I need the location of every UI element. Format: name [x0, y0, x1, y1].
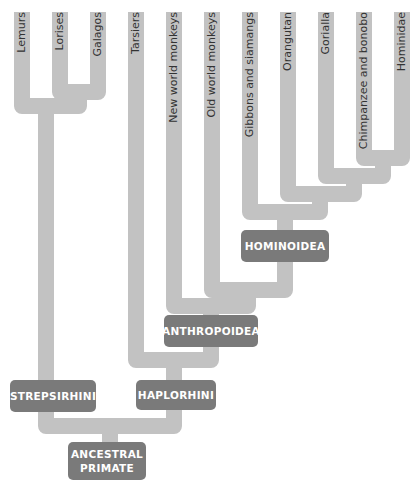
leaf-galagos: Galagos — [90, 12, 106, 132]
node-label: HOMINOIDEA — [245, 239, 326, 253]
leaf-label: Old world monkeys — [204, 12, 220, 117]
leaf-label: Hominidae — [394, 12, 410, 71]
leaf-gibbons-siamangs: Gibbons and siamangs — [242, 12, 258, 132]
leaf-lemurs: Lemurs — [14, 12, 30, 132]
leaf-label: New world monkeys — [166, 12, 182, 123]
node-label-line2: PRIMATE — [80, 461, 134, 475]
leaf-label: Lorises — [52, 12, 68, 50]
leaf-hominidae: Hominidae — [394, 12, 410, 132]
leaf-label: Tarsiers — [128, 12, 144, 54]
node-label: ANTHROPOIDEA — [162, 324, 260, 338]
leaf-label: Gibbons and siamangs — [242, 12, 258, 137]
leaf-label: Chimpanzee and bonobo — [356, 12, 372, 149]
node-label: HAPLORHINI — [138, 388, 214, 402]
leaf-label: Lemurs — [14, 12, 30, 53]
node-anthropoidea: ANTHROPOIDEA — [164, 315, 258, 347]
node-label: STREPSIRHINI — [10, 389, 96, 403]
leaf-tarsiers: Tarsiers — [128, 12, 144, 132]
leaf-label: Gorialla — [318, 12, 334, 54]
leaf-gorilla: Gorialla — [318, 12, 334, 132]
node-label-line1: ANCESTRAL — [71, 447, 143, 461]
node-strepsirhini: STREPSIRHINI — [10, 380, 96, 412]
leaf-label: Galagos — [90, 12, 106, 57]
node-hominoidea: HOMINOIDEA — [241, 230, 329, 262]
leaf-lorises: Lorises — [52, 12, 68, 132]
node-haplorhini: HAPLORHINI — [136, 380, 216, 410]
leaf-chimpanzee-bonobo: Chimpanzee and bonobo — [356, 12, 372, 132]
leaf-old-world-monkeys: Old world monkeys — [204, 12, 220, 132]
branch-root-join — [46, 410, 174, 426]
node-ancestral-primate: ANCESTRAL PRIMATE — [68, 442, 146, 480]
leaf-new-world-monkeys: New world monkeys — [166, 12, 182, 132]
leaf-orangutan: Orangutan — [280, 12, 296, 132]
leaf-label: Orangutan — [280, 12, 296, 71]
